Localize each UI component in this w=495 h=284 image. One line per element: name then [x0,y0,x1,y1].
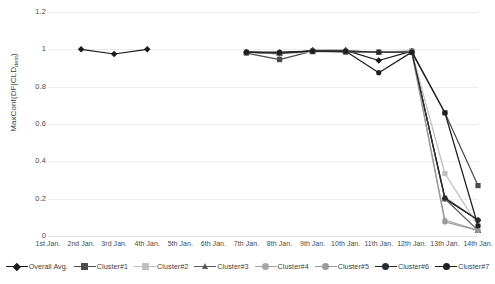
legend-label: Cluster#4 [278,262,309,271]
data-point [475,183,480,188]
x-tick-label-11: 11th Jan. [364,238,393,250]
data-point [442,110,447,115]
legend-label: Cluster#3 [217,262,248,271]
data-point [442,195,447,200]
x-tick-label-2: 2nd Jan. [67,238,94,250]
legend-marker-icon [74,262,96,271]
series-cluster-4 [244,49,481,233]
series-line [247,50,479,220]
x-tick-label-12: 12th Jan. [397,238,426,250]
legend-marker-icon [375,262,397,271]
y-axis-title-subscript: dest [12,56,18,67]
series-overall-avg [78,46,481,223]
gridline-y-0 [48,236,478,237]
y-axis-title: MaxConf(DF|CLDdest) [9,18,18,168]
data-point [111,51,118,58]
series-line [247,51,479,230]
data-point [78,46,85,53]
x-tick-label-3: 3rd Jan. [101,238,127,250]
x-tick-label-13: 13th Jan. [430,238,459,250]
x-tick-label-8: 8th Jan. [267,238,292,250]
x-tick-label-10: 10th Jan. [331,238,360,250]
plot-area [48,12,478,236]
y-tick-label-1.2: 1.2 [4,8,46,16]
data-point [277,50,282,55]
data-point [442,171,447,176]
legend-marker-icon [435,262,457,271]
chart-legend: Overall Avg.Cluster#1Cluster#2Cluster#3C… [0,258,495,274]
y-axis-title-main: MaxConf(DF|CLD [9,67,18,132]
data-point [144,46,151,53]
legend-item-cluster-6[interactable]: Cluster#6 [375,262,429,271]
data-point [409,50,414,55]
x-tick-label-6: 6th Jan. [201,238,226,250]
legend-marker-icon [255,262,277,271]
series-line [247,51,479,220]
data-point [277,57,282,62]
series-line [247,51,479,230]
data-point [475,228,480,233]
x-axis: 1st Jan.2nd Jan.3rd Jan.4th Jan.5th Jan.… [48,238,478,252]
data-point [475,223,480,228]
series-cluster-1 [244,49,481,189]
series-line [247,51,479,230]
legend-item-cluster-1[interactable]: Cluster#1 [74,262,128,271]
legend-label: Cluster#6 [398,262,429,271]
legend-item-cluster-3[interactable]: Cluster#3 [194,262,248,271]
legend-label: Overall Avg. [29,262,68,271]
legend-label: Cluster#7 [458,262,489,271]
data-point [376,70,381,75]
x-tick-label-7: 7th Jan. [234,238,259,250]
y-tick-label-0.2: 0.2 [4,195,46,203]
x-tick-label-9: 9th Jan. [300,238,325,250]
legend-item-cluster-4[interactable]: Cluster#4 [255,262,309,271]
legend-label: Cluster#5 [338,262,369,271]
legend-marker-icon [6,262,28,271]
legend-marker-icon [194,262,216,271]
x-tick-label-14: 14th Jan. [463,238,492,250]
x-tick-label-1: 1st Jan. [36,238,61,250]
series-cluster-3 [243,48,481,233]
data-point [343,49,348,54]
x-tick-label-5: 5th Jan. [168,238,193,250]
legend-marker-icon [315,262,337,271]
legend-marker-icon [134,262,156,271]
legend-label: Cluster#2 [157,262,188,271]
data-point [376,50,381,55]
legend-item-overall-avg[interactable]: Overall Avg. [6,262,68,271]
data-point [376,57,383,64]
series-layer [48,12,478,236]
data-point [310,49,315,54]
y-axis: 00.20.40.60.811.2 [0,12,46,236]
legend-label: Cluster#1 [97,262,128,271]
series-cluster-5 [244,49,481,233]
series-cluster-6 [244,49,481,223]
legend-item-cluster-2[interactable]: Cluster#2 [134,262,188,271]
x-tick-label-4: 4th Jan. [135,238,160,250]
data-point [442,219,447,224]
chart-container: 00.20.40.60.811.2 MaxConf(DF|CLDdest) 1s… [0,0,495,284]
data-point [244,50,249,55]
legend-item-cluster-5[interactable]: Cluster#5 [315,262,369,271]
legend-item-cluster-7[interactable]: Cluster#7 [435,262,489,271]
